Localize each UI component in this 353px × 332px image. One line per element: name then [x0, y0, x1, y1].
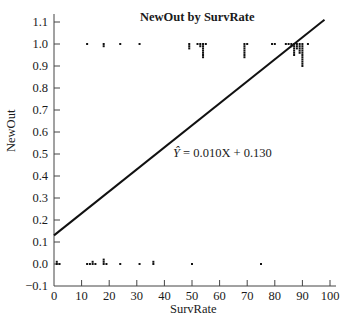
- data-point: [188, 47, 190, 49]
- data-point: [202, 56, 204, 58]
- data-point: [293, 47, 295, 49]
- data-point: [301, 54, 303, 56]
- axes: −0.10.00.10.20.30.40.50.60.70.80.91.01.1…: [25, 14, 339, 303]
- x-tick-label: 10: [75, 289, 88, 303]
- data-point: [103, 261, 105, 263]
- data-point: [94, 263, 96, 265]
- data-point: [274, 43, 276, 45]
- data-point: [243, 43, 245, 45]
- data-point: [296, 47, 298, 49]
- data-points: [56, 43, 309, 265]
- x-tick-label: 70: [241, 289, 254, 303]
- data-point: [243, 56, 245, 58]
- data-point: [119, 43, 121, 45]
- data-point: [92, 261, 94, 263]
- data-point: [301, 65, 303, 67]
- y-tick-label: 0.2: [32, 213, 48, 227]
- data-point: [301, 43, 303, 45]
- data-point: [202, 45, 204, 47]
- data-point: [103, 263, 105, 265]
- x-tick-label: 30: [131, 289, 144, 303]
- x-tick-label: 20: [103, 289, 116, 303]
- y-tick-label: 0.7: [32, 103, 48, 117]
- regression-line: [54, 20, 324, 236]
- data-point: [293, 52, 295, 54]
- data-point: [301, 45, 303, 47]
- data-point: [299, 47, 301, 49]
- scatter-chart: NewOut by SurvRate NewOut SurvRate Ŷ = 0…: [0, 0, 353, 332]
- data-point: [188, 43, 190, 45]
- y-tick-label: 0.9: [32, 59, 48, 73]
- data-point: [139, 43, 141, 45]
- data-point: [243, 47, 245, 49]
- data-point: [92, 263, 94, 265]
- data-point: [301, 56, 303, 58]
- data-point: [152, 261, 154, 263]
- data-point: [139, 263, 141, 265]
- data-point: [56, 261, 58, 263]
- x-tick-label: 40: [158, 289, 171, 303]
- data-point: [301, 52, 303, 54]
- y-tick-label: 0.5: [32, 147, 48, 161]
- data-point: [202, 50, 204, 52]
- data-point: [260, 263, 262, 265]
- x-tick-label: 90: [296, 289, 309, 303]
- y-tick-label: 0.6: [32, 125, 48, 139]
- data-point: [202, 47, 204, 49]
- data-point: [89, 263, 91, 265]
- data-point: [86, 43, 88, 45]
- y-tick-label: 0.3: [32, 191, 48, 205]
- data-point: [296, 45, 298, 47]
- y-tick-label: 1.0: [32, 37, 48, 51]
- data-point: [243, 52, 245, 54]
- data-point: [103, 43, 105, 45]
- data-point: [243, 45, 245, 47]
- data-point: [103, 259, 105, 261]
- data-point: [299, 52, 301, 54]
- data-point: [202, 52, 204, 54]
- data-point: [56, 263, 58, 265]
- data-point: [301, 63, 303, 65]
- plot-area: −0.10.00.10.20.30.40.50.60.70.80.91.01.1…: [0, 0, 353, 332]
- data-point: [243, 54, 245, 56]
- data-point: [288, 43, 290, 45]
- data-point: [197, 43, 199, 45]
- x-tick-label: 0: [51, 289, 57, 303]
- data-point: [246, 43, 248, 45]
- data-point: [243, 50, 245, 52]
- y-tick-label: 0.0: [32, 257, 48, 271]
- data-point: [307, 43, 309, 45]
- data-point: [86, 263, 88, 265]
- data-point: [293, 54, 295, 56]
- data-point: [59, 263, 61, 265]
- data-point: [301, 61, 303, 63]
- x-tick-label: 60: [213, 289, 226, 303]
- x-tick-label: 100: [321, 289, 340, 303]
- data-point: [152, 263, 154, 265]
- x-tick-label: 50: [186, 289, 199, 303]
- data-point: [301, 58, 303, 60]
- data-point: [202, 54, 204, 56]
- data-point: [301, 50, 303, 52]
- y-tick-label: 0.8: [32, 81, 48, 95]
- y-tick-label: 1.1: [32, 15, 48, 29]
- data-point: [188, 45, 190, 47]
- data-point: [199, 45, 201, 47]
- data-point: [119, 263, 121, 265]
- data-point: [271, 43, 273, 45]
- data-point: [299, 45, 301, 47]
- data-point: [103, 45, 105, 47]
- y-tick-label: 0.4: [32, 169, 48, 183]
- y-tick-label: 0.1: [32, 235, 48, 249]
- data-point: [285, 43, 287, 45]
- data-point: [301, 47, 303, 49]
- regression-line-path: [54, 20, 324, 236]
- x-tick-label: 80: [269, 289, 282, 303]
- data-point: [205, 43, 207, 45]
- data-point: [199, 43, 201, 45]
- data-point: [299, 50, 301, 52]
- y-tick-label: −0.1: [25, 279, 48, 293]
- data-point: [202, 43, 204, 45]
- data-point: [293, 50, 295, 52]
- data-point: [191, 263, 193, 265]
